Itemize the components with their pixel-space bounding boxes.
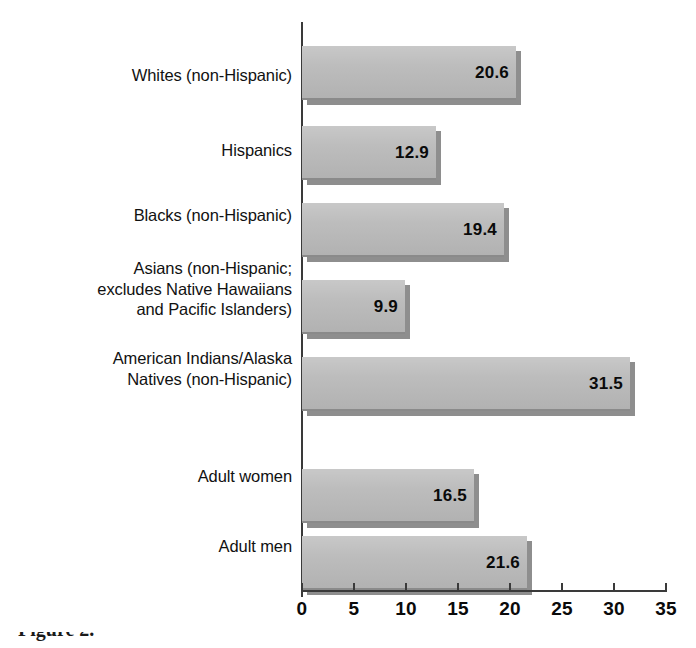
bar-asians-non-hispanic[interactable]: 9.9 xyxy=(302,280,405,334)
category-label: Adult men xyxy=(0,536,292,557)
plot-area: 20.6 12.9 19.4 9.9 31.5 xyxy=(301,22,696,590)
bar-value-label: 16.5 xyxy=(433,486,467,506)
axis-tick xyxy=(457,583,459,592)
axis-tick-label: 30 xyxy=(603,598,625,620)
axis-tick xyxy=(301,583,303,597)
bar-american-indians-alaska-natives[interactable]: 31.5 xyxy=(302,357,630,411)
bar-blacks-non-hispanic[interactable]: 19.4 xyxy=(302,203,504,257)
value-axis-horizontal: 0 5 10 15 20 25 30 35 xyxy=(301,590,667,591)
axis-tick-label: 25 xyxy=(551,598,573,620)
bar-value-label: 19.4 xyxy=(463,220,497,240)
axis-tick-label: 5 xyxy=(349,598,360,620)
axis-tick xyxy=(665,583,667,592)
bar-value-label: 20.6 xyxy=(475,63,509,83)
axis-tick-label: 10 xyxy=(395,598,417,620)
axis-tick xyxy=(509,583,511,592)
bar-adult-men[interactable]: 21.6 xyxy=(302,536,527,590)
category-label: Whites (non-Hispanic) xyxy=(0,65,292,86)
category-axis-labels: Whites (non-Hispanic) Hispanics Blacks (… xyxy=(0,0,292,600)
bar-body xyxy=(302,357,630,411)
bar-value-label: 21.6 xyxy=(486,553,520,573)
bar-chart: Whites (non-Hispanic) Hispanics Blacks (… xyxy=(0,0,696,648)
bar-whites-non-hispanic[interactable]: 20.6 xyxy=(302,46,516,100)
category-label: Asians (non-Hispanic; excludes Native Ha… xyxy=(0,258,292,320)
category-label: American Indians/Alaska Natives (non-His… xyxy=(0,348,292,389)
bar-value-label: 12.9 xyxy=(395,143,429,163)
figure-caption-cropped: Figure 2. xyxy=(18,632,318,648)
axis-tick xyxy=(561,583,563,592)
axis-tick-label: 35 xyxy=(655,598,677,620)
category-label: Hispanics xyxy=(0,140,292,161)
figure-caption-text: Figure 2. xyxy=(18,632,94,641)
axis-tick-label: 15 xyxy=(447,598,469,620)
category-label: Adult women xyxy=(0,466,292,487)
bar-value-label: 31.5 xyxy=(589,374,623,394)
axis-tick-label: 20 xyxy=(499,598,521,620)
category-label: Blacks (non-Hispanic) xyxy=(0,205,292,226)
axis-tick xyxy=(613,583,615,592)
bar-hispanics[interactable]: 12.9 xyxy=(302,126,436,180)
bar-adult-women[interactable]: 16.5 xyxy=(302,469,474,523)
axis-tick-label: 0 xyxy=(297,598,308,620)
axis-tick xyxy=(405,583,407,592)
axis-tick xyxy=(353,583,355,592)
bar-value-label: 9.9 xyxy=(374,297,398,317)
